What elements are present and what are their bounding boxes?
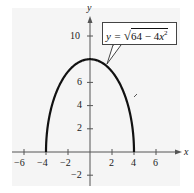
chart-figure: y = √64 − 4x2 y x −6 −4 −2 2 4 6 10 6 4 … — [0, 0, 194, 193]
x-tick-label: 4 — [131, 158, 136, 168]
y-tick-label: 2 — [77, 123, 82, 133]
equation-callout: y = √64 − 4x2 — [102, 22, 177, 45]
x-axis-arrow-icon — [175, 150, 182, 155]
x-tick-label: −2 — [60, 158, 71, 168]
x-tick-label: −6 — [14, 158, 25, 168]
x-tick-label: 6 — [153, 158, 158, 168]
callout-pointer — [107, 45, 121, 64]
equation-lhs: y = — [106, 30, 124, 42]
x-tick-label: −4 — [37, 158, 48, 168]
x-axis-label: x — [184, 147, 188, 157]
y-axis-arrow-icon — [88, 16, 93, 23]
y-tick-label: 10 — [70, 31, 80, 41]
y-axis-label: y — [87, 3, 91, 13]
y-tick-label: 6 — [77, 77, 82, 87]
y-tick-label: 4 — [77, 100, 82, 110]
y-tick-label: −2 — [71, 170, 82, 180]
sqrt-symbol: √ — [124, 28, 131, 43]
radicand: 64 − 4x2 — [131, 28, 168, 42]
x-tick-label: 2 — [109, 158, 114, 168]
stray-mark — [134, 94, 137, 97]
